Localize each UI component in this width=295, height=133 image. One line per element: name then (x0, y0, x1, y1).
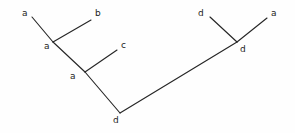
edge-junction-d-to-leaf-a (237, 18, 267, 42)
node-label-leaf-a-right: a (271, 9, 277, 18)
node-label-junction-a-upper: a (44, 42, 50, 51)
diagram-edges-layer (0, 0, 295, 133)
edge-junction-d-to-junction-d (120, 42, 237, 113)
node-label-leaf-c: c (121, 41, 126, 50)
diagram-canvas: a b c d a a a d d (0, 0, 295, 133)
edge-junction-a-to-junction-d (85, 72, 120, 113)
node-label-leaf-a-left: a (22, 9, 28, 18)
node-label-junction-d-right: d (240, 45, 246, 54)
edge-junction-d-to-leaf-d (210, 17, 237, 42)
edge-junction-a-to-leaf-c (85, 50, 117, 72)
node-label-junction-a-lower: a (70, 72, 76, 81)
node-label-leaf-d-right: d (198, 9, 204, 18)
edge-junction-a-to-leaf-b (53, 20, 91, 42)
node-label-leaf-b: b (95, 9, 101, 18)
node-label-junction-d-bottom: d (113, 116, 119, 125)
edge-junction-a-to-junction-a (53, 42, 85, 72)
edge-leaf-a-to-junction-a (32, 17, 53, 42)
